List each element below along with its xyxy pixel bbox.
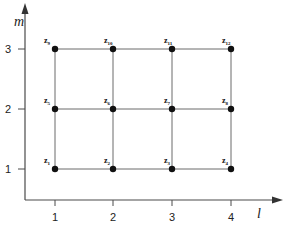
node-z7: z7	[164, 96, 175, 112]
m-tick-3: 3	[5, 43, 11, 55]
node-z6: z6	[104, 96, 116, 112]
svg-text:z10: z10	[104, 36, 113, 46]
node-z10: z10	[104, 36, 116, 52]
grid-diagram: m l 3 2 1 1 2 3 4 z9 z10 z11 z12	[0, 0, 285, 225]
svg-text:z12: z12	[222, 36, 231, 46]
node-z2: z2	[104, 156, 116, 172]
svg-text:z7: z7	[164, 96, 171, 106]
svg-text:z11: z11	[164, 36, 173, 46]
grid-lines	[55, 49, 231, 169]
svg-text:z3: z3	[164, 156, 171, 166]
svg-text:z1: z1	[44, 156, 51, 166]
node-z8: z8	[222, 96, 234, 112]
node-z4: z4	[222, 156, 234, 172]
node-z5: z5	[44, 96, 58, 112]
l-tick-3: 3	[169, 211, 175, 223]
node-z1: z1	[44, 156, 58, 172]
svg-text:z6: z6	[104, 96, 111, 106]
svg-text:z8: z8	[222, 96, 229, 106]
svg-text:z2: z2	[104, 156, 111, 166]
m-tick-2: 2	[5, 103, 11, 115]
l-tick-2: 2	[110, 211, 116, 223]
svg-text:z9: z9	[44, 36, 51, 46]
l-tick-4: 4	[228, 211, 234, 223]
l-axis-label: l	[257, 206, 261, 221]
l-tick-1: 1	[52, 211, 58, 223]
svg-text:z5: z5	[44, 96, 51, 106]
svg-text:z4: z4	[222, 156, 229, 166]
l-axis-arrow-icon	[272, 197, 283, 204]
m-axis-label: m	[14, 14, 24, 29]
node-z12: z12	[222, 36, 234, 52]
node-z3: z3	[164, 156, 175, 172]
m-axis-arrow-icon	[22, 3, 29, 14]
m-tick-1: 1	[5, 163, 11, 175]
node-z11: z11	[164, 36, 175, 52]
node-z9: z9	[44, 36, 58, 52]
